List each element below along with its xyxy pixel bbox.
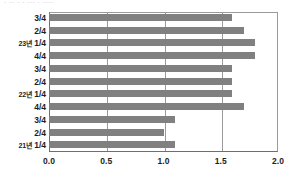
y-axis-quarter: 3/4 xyxy=(34,115,46,125)
bar xyxy=(49,27,244,34)
y-axis-quarter: 2/4 xyxy=(34,77,46,87)
bar xyxy=(49,116,175,123)
x-axis-tick-label: 1.0 xyxy=(158,156,170,166)
y-axis-labels: 3/42/423년 1/44/43/42/422년 1/44/43/42/421… xyxy=(0,12,46,152)
bar xyxy=(49,129,164,136)
bar-row xyxy=(49,101,278,114)
x-axis-tick-label: 0.0 xyxy=(43,156,55,166)
bar-row xyxy=(49,12,278,25)
y-axis-quarter: 1/4 xyxy=(34,38,46,48)
y-axis-quarter: 2/4 xyxy=(34,128,46,138)
y-axis-tick-label: 2/4 xyxy=(34,127,46,140)
bar xyxy=(49,52,255,59)
bar xyxy=(49,141,175,148)
x-axis-tick-label: 1.5 xyxy=(215,156,227,166)
y-axis-tick-label: 3/4 xyxy=(34,114,46,127)
y-axis-tick-label: 4/4 xyxy=(34,101,46,114)
y-axis-tick-label: 21년 1/4 xyxy=(18,139,46,152)
bar xyxy=(49,90,232,97)
bar-row xyxy=(49,88,278,101)
y-axis-quarter: 4/4 xyxy=(34,102,46,112)
bar xyxy=(49,78,232,85)
y-axis-year-prefix: 22년 xyxy=(18,91,34,98)
y-axis-tick-label: 3/4 xyxy=(34,12,46,25)
bar-row xyxy=(49,127,278,140)
bar-chart: · ·· · · ··· · ···· 3/42/423년 1/44/43/42… xyxy=(0,0,291,180)
x-axis-tick-label: 0.5 xyxy=(100,156,112,166)
bar-row xyxy=(49,37,278,50)
y-axis-tick-label: 23년 1/4 xyxy=(18,37,46,50)
bar-row xyxy=(49,63,278,76)
bar xyxy=(49,103,244,110)
bar-series xyxy=(49,12,278,152)
x-axis-labels: 0.00.51.01.52.0 xyxy=(49,156,278,170)
y-axis-tick-label: 2/4 xyxy=(34,25,46,38)
y-axis-tick-label: 4/4 xyxy=(34,50,46,63)
y-axis-quarter: 4/4 xyxy=(34,51,46,61)
y-axis-tick-label: 2/4 xyxy=(34,76,46,89)
bar-row xyxy=(49,139,278,152)
bar xyxy=(49,14,232,21)
y-axis-quarter: 3/4 xyxy=(34,64,46,74)
x-axis-tick-label: 2.0 xyxy=(272,156,284,166)
bar xyxy=(49,65,232,72)
cropped-header-text: · ·· · · ··· · ···· xyxy=(4,0,234,6)
y-axis-tick-label: 22년 1/4 xyxy=(18,88,46,101)
bar-row xyxy=(49,25,278,38)
y-axis-quarter: 1/4 xyxy=(34,89,46,99)
bar-row xyxy=(49,50,278,63)
bar-row xyxy=(49,76,278,89)
bar-row xyxy=(49,114,278,127)
y-axis-quarter: 1/4 xyxy=(34,140,46,150)
y-axis-quarter: 2/4 xyxy=(34,26,46,36)
y-axis-tick-label: 3/4 xyxy=(34,63,46,76)
y-axis-year-prefix: 21년 xyxy=(18,142,34,149)
y-axis-quarter: 3/4 xyxy=(34,13,46,23)
y-axis-year-prefix: 23년 xyxy=(18,40,34,47)
bar xyxy=(49,39,255,46)
